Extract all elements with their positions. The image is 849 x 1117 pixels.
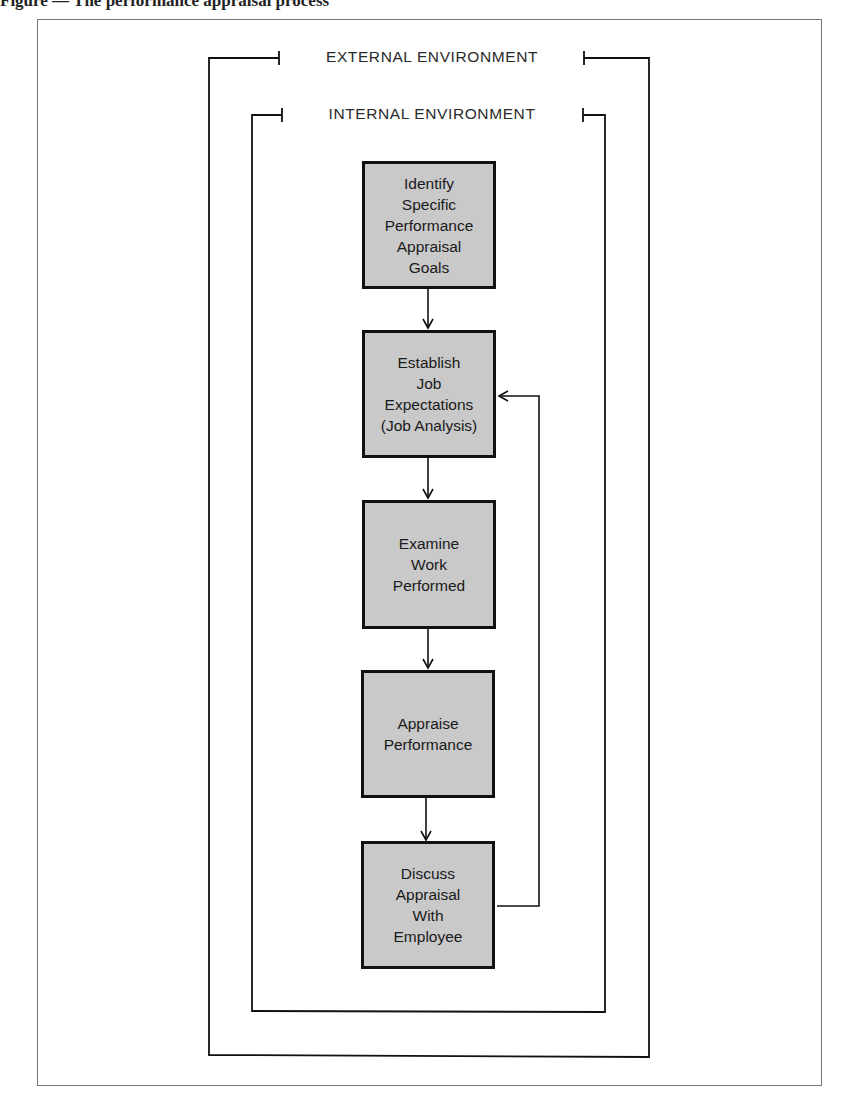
step-discuss-appraisal: Discuss Appraisal With Employee bbox=[361, 841, 495, 969]
step-appraise-performance: Appraise Performance bbox=[361, 670, 495, 798]
external-environment-label: EXTERNAL ENVIRONMENT bbox=[288, 48, 576, 66]
step-label: Examine Work Performed bbox=[393, 533, 465, 596]
step-examine-work: Examine Work Performed bbox=[362, 500, 496, 629]
step-identify-goals: Identify Specific Performance Appraisal … bbox=[362, 161, 496, 289]
step-establish-expectations: Establish Job Expectations (Job Analysis… bbox=[362, 330, 496, 458]
feedback-loop-arrow bbox=[497, 396, 539, 906]
step-label: Discuss Appraisal With Employee bbox=[394, 863, 463, 947]
step-label: Identify Specific Performance Appraisal … bbox=[385, 173, 474, 278]
step-label: Appraise Performance bbox=[384, 713, 473, 755]
internal-environment-label: INTERNAL ENVIRONMENT bbox=[288, 105, 576, 123]
step-label: Establish Job Expectations (Job Analysis… bbox=[381, 352, 477, 436]
